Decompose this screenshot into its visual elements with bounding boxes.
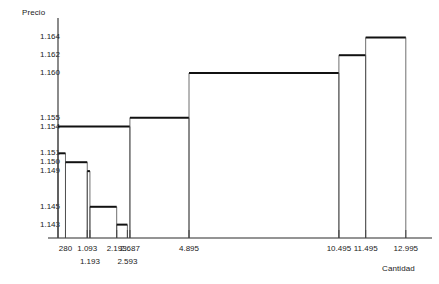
series-demanda-steps: [58, 153, 127, 238]
step-chart: Precio Cantidad 1.1641.1621.1601.1551.15…: [0, 0, 439, 284]
axis-lines: [48, 18, 432, 238]
plot-area: [0, 0, 439, 284]
series-oferta-steps: [58, 37, 406, 238]
